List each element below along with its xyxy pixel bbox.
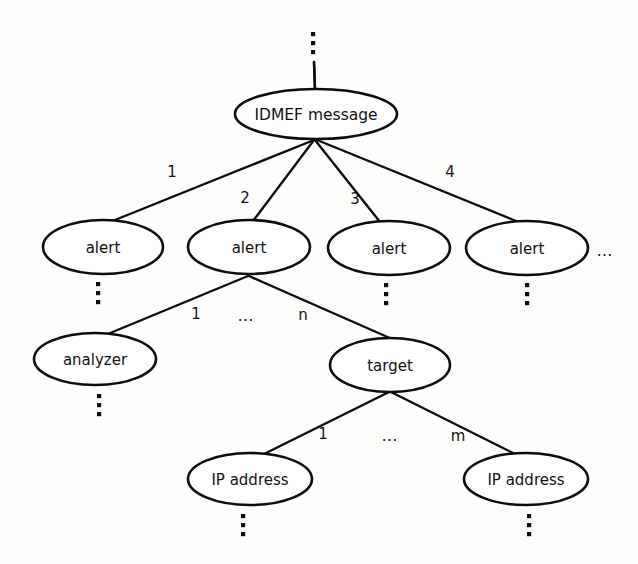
dot (96, 282, 100, 286)
dots-below-alert3 (384, 283, 388, 305)
node-label-target: target (367, 357, 413, 375)
node-label-alert4: alert (510, 240, 545, 258)
node-target[interactable]: target (330, 338, 450, 392)
node-label-alert3: alert (372, 240, 407, 258)
ellipsis-alert-row: … (597, 241, 614, 260)
edge-alert2-analyzer (103, 276, 248, 336)
dot (311, 50, 315, 54)
dots-below-alert1 (96, 282, 100, 304)
edge-label-lbl-3-top: 3 (350, 190, 360, 208)
edge-alert2-target (249, 276, 392, 339)
dot (525, 283, 529, 287)
dot (527, 532, 531, 536)
edge-labels-layer: 12341n1m (167, 163, 465, 445)
idmef-tree-diagram: IDMEF messagealertalertalertalertanalyze… (0, 0, 638, 564)
dot (311, 32, 315, 36)
dot (97, 394, 101, 398)
edge-label-lbl-2-top: 2 (240, 189, 250, 207)
node-alert3[interactable]: alert (328, 221, 450, 275)
dot (311, 41, 315, 45)
dot (96, 291, 100, 295)
edge-label-lbl-m-bottom: m (451, 427, 466, 445)
dots-below-ip1 (241, 514, 245, 536)
dot (241, 532, 245, 536)
dot (97, 412, 101, 416)
edge-target-ip2 (391, 392, 519, 456)
dots-below-alert4 (525, 283, 529, 305)
node-alert4[interactable]: alert (466, 221, 588, 275)
node-label-analyzer: analyzer (63, 351, 128, 369)
node-label-alert1: alert (86, 239, 121, 257)
dots-below-analyzer (97, 394, 101, 416)
dot (384, 292, 388, 296)
node-ip2[interactable]: IP address (464, 453, 588, 505)
dot (97, 403, 101, 407)
node-label-ip1: IP address (211, 471, 288, 489)
dot (525, 301, 529, 305)
edge-label-lbl-1-top: 1 (167, 163, 177, 181)
node-idmef[interactable]: IDMEF message (235, 89, 397, 139)
dot (241, 514, 245, 518)
dot (241, 523, 245, 527)
nodes-layer: IDMEF messagealertalertalertalertanalyze… (34, 89, 588, 505)
edge-label-lbl-1-bottom: 1 (318, 425, 328, 443)
edge-root-stub (314, 62, 315, 90)
node-ip1[interactable]: IP address (188, 453, 312, 505)
dot (525, 292, 529, 296)
dot (384, 301, 388, 305)
node-alert1[interactable]: alert (43, 220, 163, 274)
dots-above-idmef (311, 32, 315, 54)
edge-label-lbl-n-mid: n (298, 306, 308, 324)
ellipsis-bottom-row: … (382, 426, 399, 445)
dots-below-ip2 (527, 514, 531, 536)
edge-label-lbl-4-top: 4 (445, 163, 455, 181)
dot (384, 283, 388, 287)
node-alert2[interactable]: alert (188, 220, 310, 274)
dot (96, 300, 100, 304)
node-analyzer[interactable]: analyzer (34, 333, 156, 385)
dot (527, 523, 531, 527)
dot (527, 514, 531, 518)
ellipsis-mid-row: … (238, 306, 255, 325)
node-label-idmef: IDMEF message (254, 106, 377, 124)
diagram-canvas: IDMEF messagealertalertalertalertanalyze… (0, 0, 638, 564)
edge-label-lbl-1-mid: 1 (191, 305, 201, 323)
node-label-alert2: alert (232, 239, 267, 257)
node-label-ip2: IP address (487, 471, 564, 489)
